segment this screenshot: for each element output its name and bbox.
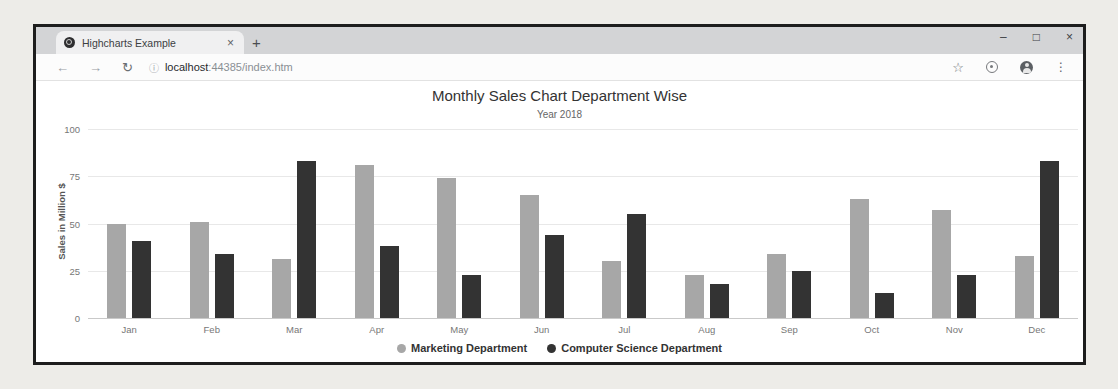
bar-marketing-department-oct <box>850 199 869 318</box>
category-oct <box>831 129 914 318</box>
x-axis-label-dec: Dec <box>996 324 1079 335</box>
screenshot-canvas: Highcharts Example × + – □ × ← → ↻ ⓘ loc… <box>0 0 1118 389</box>
bar-marketing-department-aug <box>685 275 704 318</box>
x-axis-label-aug: Aug <box>666 324 749 335</box>
bar-computer-science-department-aug <box>710 284 729 318</box>
maximize-button[interactable]: □ <box>1033 31 1040 43</box>
browser-window: Highcharts Example × + – □ × ← → ↻ ⓘ loc… <box>33 24 1086 365</box>
category-sep <box>748 129 831 318</box>
y-tick-label-0: 0 <box>36 313 80 324</box>
bar-computer-science-department-may <box>462 275 481 318</box>
bookmark-star-icon[interactable]: ☆ <box>952 61 964 74</box>
browser-toolbar: ← → ↻ ⓘ localhost:44385/index.htm ☆ ⋮ <box>36 54 1083 81</box>
bar-computer-science-department-mar <box>297 161 316 318</box>
bar-marketing-department-jan <box>107 224 126 319</box>
bar-computer-science-department-jun <box>545 235 564 318</box>
browser-tab[interactable]: Highcharts Example × <box>56 31 244 54</box>
category-jul <box>583 129 666 318</box>
chart-container: Monthly Sales Chart Department Wise Year… <box>36 81 1083 361</box>
y-tick-label-25: 25 <box>36 266 80 277</box>
reload-icon[interactable]: ↻ <box>122 61 133 74</box>
tab-title: Highcharts Example <box>82 37 218 49</box>
bar-marketing-department-dec <box>1015 256 1034 318</box>
back-icon[interactable]: ← <box>56 61 69 74</box>
x-axis-labels: JanFebMarAprMayJunJulAugSepOctNovDec <box>88 324 1078 335</box>
gridline-0 <box>88 318 1078 319</box>
category-nov <box>913 129 996 318</box>
bar-computer-science-department-dec <box>1040 161 1059 318</box>
category-apr <box>336 129 419 318</box>
bar-computer-science-department-nov <box>957 275 976 318</box>
tab-close-icon[interactable]: × <box>225 36 236 50</box>
x-axis-label-apr: Apr <box>336 324 419 335</box>
legend-marker-icon <box>397 344 406 353</box>
category-mar <box>253 129 336 318</box>
legend-item-computer-science-department[interactable]: Computer Science Department <box>547 342 722 354</box>
y-tick-label-50: 50 <box>36 219 80 230</box>
bar-marketing-department-mar <box>272 259 291 318</box>
bar-computer-science-department-feb <box>215 254 234 318</box>
tab-bar: Highcharts Example × + – □ × <box>36 27 1083 54</box>
x-axis-label-oct: Oct <box>831 324 914 335</box>
x-axis-label-jan: Jan <box>88 324 171 335</box>
page-info-icon[interactable]: ⓘ <box>149 60 159 75</box>
category-feb <box>171 129 254 318</box>
legend-item-marketing-department[interactable]: Marketing Department <box>397 342 527 354</box>
close-button[interactable]: × <box>1066 31 1073 43</box>
y-tick-label-100: 100 <box>36 124 80 135</box>
bar-computer-science-department-sep <box>792 271 811 318</box>
bar-marketing-department-jul <box>602 261 621 318</box>
x-axis-label-jun: Jun <box>501 324 584 335</box>
legend-label: Marketing Department <box>411 342 527 354</box>
url-path: :44385/index.htm <box>208 61 292 73</box>
forward-icon[interactable]: → <box>89 61 102 74</box>
bar-marketing-department-nov <box>932 210 951 318</box>
chart-legend: Marketing DepartmentComputer Science Dep… <box>36 342 1083 354</box>
extensions-icon[interactable] <box>986 61 998 73</box>
bar-marketing-department-sep <box>767 254 786 318</box>
x-axis-label-nov: Nov <box>913 324 996 335</box>
nav-icons: ← → ↻ <box>56 61 133 74</box>
x-axis-label-jul: Jul <box>583 324 666 335</box>
window-controls: – □ × <box>1000 31 1073 43</box>
url-host: localhost <box>165 61 208 73</box>
url-text[interactable]: localhost:44385/index.htm <box>165 61 293 73</box>
bar-computer-science-department-jan <box>132 241 151 318</box>
new-tab-button[interactable]: + <box>252 34 261 51</box>
legend-label: Computer Science Department <box>561 342 722 354</box>
bar-marketing-department-jun <box>520 195 539 318</box>
x-axis-label-may: May <box>418 324 501 335</box>
minimize-button[interactable]: – <box>1000 31 1007 43</box>
plot-area <box>88 129 1078 318</box>
highcharts-favicon <box>64 37 75 48</box>
bar-marketing-department-feb <box>190 222 209 318</box>
x-axis-label-feb: Feb <box>171 324 254 335</box>
bar-marketing-department-apr <box>355 165 374 318</box>
category-may <box>418 129 501 318</box>
category-aug <box>666 129 749 318</box>
bar-computer-science-department-jul <box>627 214 646 318</box>
chart-title: Monthly Sales Chart Department Wise <box>36 87 1083 104</box>
bar-marketing-department-may <box>437 178 456 318</box>
category-jan <box>88 129 171 318</box>
chart-subtitle: Year 2018 <box>36 109 1083 120</box>
browser-menu-icon[interactable]: ⋮ <box>1055 61 1067 73</box>
toolbar-right-icons: ☆ ⋮ <box>952 61 1067 74</box>
category-jun <box>501 129 584 318</box>
address-bar[interactable]: ⓘ localhost:44385/index.htm <box>149 60 952 75</box>
x-axis-label-sep: Sep <box>748 324 831 335</box>
profile-avatar-icon[interactable] <box>1020 61 1033 74</box>
x-axis-label-mar: Mar <box>253 324 336 335</box>
bar-computer-science-department-apr <box>380 246 399 318</box>
legend-marker-icon <box>547 344 556 353</box>
category-dec <box>996 129 1079 318</box>
bar-computer-science-department-oct <box>875 293 894 318</box>
y-tick-label-75: 75 <box>36 171 80 182</box>
